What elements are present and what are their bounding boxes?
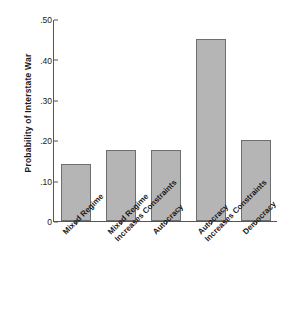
y-axis-tick-label: .20: [40, 137, 54, 146]
y-axis-tick-label: .30: [40, 97, 54, 106]
y-axis-tick-label: .40: [40, 56, 54, 65]
bar: [151, 150, 181, 221]
y-axis-tick: .40: [40, 60, 54, 61]
y-axis-tick: 0: [47, 222, 54, 223]
y-axis-tick-label: .10: [40, 177, 54, 186]
y-axis-tick: .10: [40, 181, 54, 182]
y-axis-tick-mark: [54, 221, 58, 222]
y-axis-tick: .30: [40, 100, 54, 101]
x-axis-tick-mark: [256, 221, 257, 225]
x-axis-tick-mark: [76, 221, 77, 225]
y-axis-tick-label: .50: [40, 16, 54, 25]
bar: [196, 39, 226, 221]
bar-chart-figure: Chief Executive Probability of Interstat…: [0, 0, 291, 329]
bars-group: [54, 20, 277, 221]
plot-area: .50.40.30.20.100: [53, 20, 277, 222]
bar: [241, 140, 271, 221]
x-axis-tick-mark: [166, 221, 167, 225]
bar: [61, 164, 91, 221]
clipped-caption: Chief Executive: [16, 0, 85, 2]
bar: [106, 150, 136, 221]
y-axis-tick: .20: [40, 141, 54, 142]
y-axis-title: Probability of Interstate War: [23, 23, 33, 203]
y-axis-tick-label: 0: [47, 218, 54, 227]
x-axis-tick-mark: [121, 221, 122, 225]
x-axis-tick-mark: [211, 221, 212, 225]
y-axis-tick: .50: [40, 20, 54, 21]
